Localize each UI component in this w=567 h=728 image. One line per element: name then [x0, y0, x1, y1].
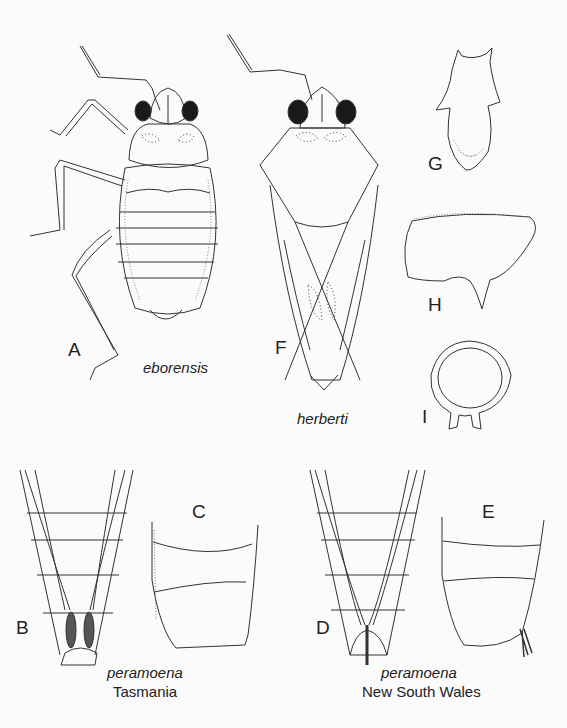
panel-f-drawing: [200, 0, 400, 400]
panel-label-d: D: [316, 618, 330, 637]
panel-label-h: H: [428, 295, 442, 314]
species-caption-eborensis: eborensis: [143, 360, 208, 375]
panel-a-drawing: [0, 0, 230, 400]
species-caption-herberti: herberti: [297, 411, 348, 426]
panel-g-drawing: [430, 40, 520, 180]
locality-caption-nsw: New South Wales: [362, 684, 481, 699]
locality-caption-tasmania: Tasmania: [113, 684, 177, 699]
panel-h-drawing: [400, 205, 540, 315]
panel-b-drawing: [15, 465, 145, 665]
panel-c-drawing: [150, 520, 260, 655]
species-caption-peramoena-tasmania: peramoena: [107, 665, 183, 680]
panel-label-e: E: [482, 502, 495, 521]
figure-plate: A eborensis F herberti G H: [0, 0, 567, 728]
panel-label-b: B: [16, 618, 29, 637]
panel-e-drawing: [440, 515, 550, 660]
panel-label-g: G: [428, 154, 443, 173]
panel-label-f: F: [275, 338, 287, 357]
panel-label-c: C: [192, 502, 206, 521]
panel-label-a: A: [68, 340, 81, 359]
species-caption-peramoena-nsw: peramoena: [381, 665, 457, 680]
panel-label-i: I: [422, 407, 427, 426]
panel-i-drawing: [425, 335, 515, 435]
